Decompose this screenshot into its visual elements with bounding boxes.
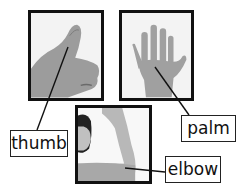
elbow-arm-image <box>78 108 149 181</box>
palm-hand-image <box>122 13 191 98</box>
thumb-label: thumb <box>10 130 68 157</box>
palm-photo <box>119 10 194 101</box>
thumb-photo <box>28 10 104 101</box>
thumb-hand-image <box>31 13 101 98</box>
elbow-photo <box>75 105 152 184</box>
palm-label: palm <box>181 115 236 142</box>
elbow-label: elbow <box>165 156 221 183</box>
